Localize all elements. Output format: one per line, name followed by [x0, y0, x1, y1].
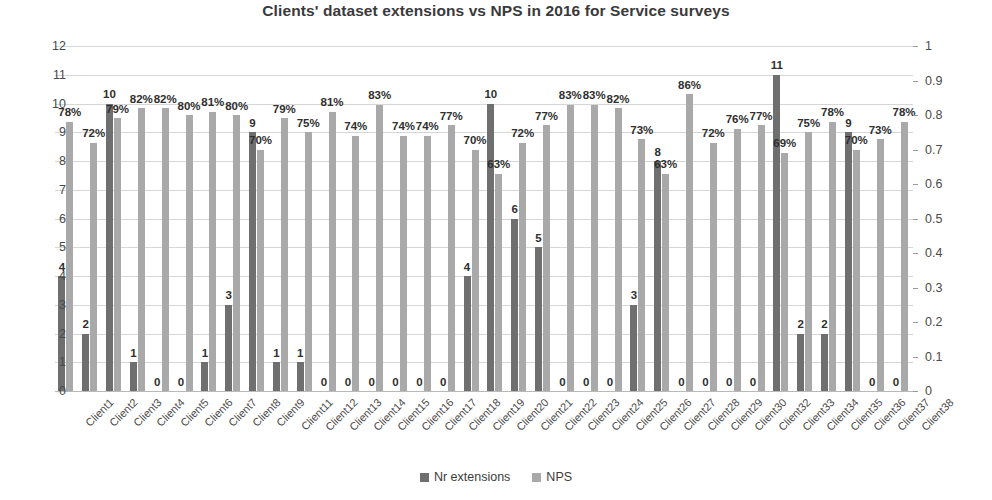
bar-label-nps: 75% — [797, 118, 820, 130]
bar-group: 1063% — [487, 46, 504, 391]
bar-nps — [829, 122, 836, 391]
bar-label-nr-extensions: 0 — [583, 377, 589, 389]
bar-label-nps: 74% — [344, 121, 367, 133]
bar-label-nps: 77% — [749, 111, 772, 123]
bar-nr-extensions — [535, 247, 542, 391]
bar-group: 272% — [82, 46, 99, 391]
bar-label-nr-extensions: 0 — [750, 377, 756, 389]
y-tick-mark-right — [913, 322, 918, 323]
bar-label-nr-extensions: 1 — [202, 348, 208, 360]
bar-group: 182% — [130, 46, 147, 391]
legend-label: NPS — [546, 470, 572, 484]
y-tick-label-right: 0.6 — [925, 177, 971, 191]
y-tick-label-right: 0.9 — [925, 74, 971, 88]
y-tick-mark-right — [913, 253, 918, 254]
bar-group: 278% — [821, 46, 838, 391]
bar-label-nr-extensions: 2 — [797, 319, 803, 331]
bar-nps — [734, 129, 741, 391]
y-tick-mark-right — [913, 288, 918, 289]
bar-nps — [519, 143, 526, 391]
bar-label-nr-extensions: 6 — [511, 204, 517, 216]
y-tick-mark-right — [913, 184, 918, 185]
bar-group: 970% — [249, 46, 266, 391]
bar-label-nr-extensions: 0 — [440, 377, 446, 389]
legend-item-nr-extensions[interactable]: Nr extensions — [420, 470, 510, 484]
bar-label-nps: 73% — [630, 125, 653, 137]
bar-label-nr-extensions: 0 — [178, 377, 184, 389]
bar-nr-extensions — [654, 161, 661, 391]
bar-nps — [567, 105, 574, 391]
bar-group: 086% — [678, 46, 695, 391]
bar-label-nps: 78% — [892, 107, 915, 119]
bar-group: 080% — [178, 46, 195, 391]
bar-label-nr-extensions: 1 — [130, 348, 136, 360]
bar-group: 081% — [321, 46, 338, 391]
bar-label-nr-extensions: 5 — [535, 233, 541, 245]
bar-nps — [281, 118, 288, 391]
bar-group: 083% — [368, 46, 385, 391]
bar-label-nps: 74% — [416, 121, 439, 133]
bar-nr-extensions — [845, 132, 852, 391]
bar-nr-extensions — [82, 334, 89, 392]
y-tick-label-left: 10 — [32, 97, 66, 111]
bar-label-nps: 83% — [583, 90, 606, 102]
y-tick-mark-right — [913, 219, 918, 220]
bar-label-nps: 70% — [845, 135, 868, 147]
legend-item-nps[interactable]: NPS — [532, 470, 572, 484]
y-tick-label-left: 11 — [32, 68, 66, 82]
y-tick-label-left: 0 — [32, 384, 66, 398]
bar-group: 181% — [201, 46, 218, 391]
bar-group: 076% — [726, 46, 743, 391]
bar-nps — [305, 132, 312, 391]
y-tick-mark-right — [913, 391, 918, 392]
bar-nps — [114, 118, 121, 391]
bar-group: 275% — [797, 46, 814, 391]
y-tick-label-left: 5 — [32, 240, 66, 254]
bar-nps — [472, 150, 479, 392]
y-tick-mark-right — [913, 357, 918, 358]
bar-group: 072% — [702, 46, 719, 391]
y-tick-label-right: 0.4 — [925, 246, 971, 260]
bar-group: 078% — [893, 46, 910, 391]
bar-label-nr-extensions: 2 — [82, 319, 88, 331]
bar-group: 083% — [559, 46, 576, 391]
bar-label-nps: 72% — [702, 128, 725, 140]
bar-group: 083% — [583, 46, 600, 391]
bar-group: 074% — [344, 46, 361, 391]
bar-label-nps: 72% — [511, 128, 534, 140]
bar-group: 073% — [869, 46, 886, 391]
y-tick-label-right: 1 — [925, 39, 971, 53]
bar-label-nps: 82% — [130, 94, 153, 106]
bar-nps — [329, 112, 336, 391]
bar-nps — [686, 94, 693, 391]
bar-group: 1079% — [106, 46, 123, 391]
bar-label-nps: 69% — [773, 138, 796, 150]
bar-nps — [66, 122, 73, 391]
bar-group: 082% — [607, 46, 624, 391]
y-tick-label-left: 6 — [32, 212, 66, 226]
chart-title: Clients' dataset extensions vs NPS in 20… — [0, 2, 992, 20]
bar-label-nr-extensions: 0 — [321, 377, 327, 389]
bar-label-nps: 80% — [225, 101, 248, 113]
bar-nps — [209, 112, 216, 391]
bar-group: 074% — [416, 46, 433, 391]
bar-label-nps: 73% — [869, 125, 892, 137]
bar-nps — [90, 143, 97, 391]
bar-nps — [662, 174, 669, 391]
bar-nps — [376, 105, 383, 391]
bar-label-nr-extensions: 3 — [225, 290, 231, 302]
bar-label-nr-extensions: 10 — [103, 89, 116, 101]
y-tick-label-left: 7 — [32, 183, 66, 197]
bar-nps — [448, 125, 455, 391]
y-tick-mark-right — [913, 46, 918, 47]
bar-label-nr-extensions: 10 — [484, 89, 497, 101]
bar-group: 970% — [845, 46, 862, 391]
bar-nps — [424, 136, 431, 391]
bar-label-nr-extensions: 0 — [345, 377, 351, 389]
bar-group: 179% — [273, 46, 290, 391]
bar-nps — [400, 136, 407, 391]
legend-label: Nr extensions — [434, 470, 510, 484]
bar-label-nr-extensions: 0 — [368, 377, 374, 389]
bar-label-nr-extensions: 3 — [631, 290, 637, 302]
y-tick-label-right: 0.8 — [925, 108, 971, 122]
